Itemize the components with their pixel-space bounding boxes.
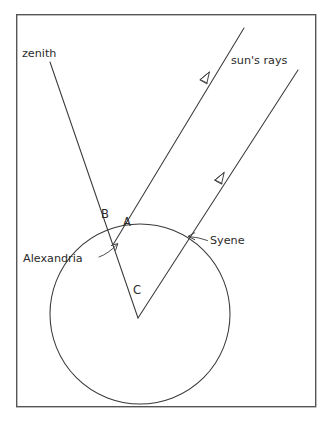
ray-arrow-icon-1 [200, 72, 209, 83]
label-vertex-a: A [123, 215, 131, 229]
label-alexandria: Alexandria [23, 252, 83, 265]
label-syene: Syene [210, 234, 245, 247]
label-vertex-b: B [101, 207, 109, 221]
diagram-frame [17, 15, 316, 407]
sun-ray-syene [138, 70, 298, 318]
zenith-line [50, 62, 138, 318]
label-zenith: zenith [22, 47, 56, 60]
diagram-canvas: zenith sun's rays Alexandria Syene B A C [0, 0, 333, 428]
ray-arrow-icon-2 [215, 172, 224, 183]
label-suns-rays: sun's rays [231, 54, 288, 67]
sun-ray-alexandria [114, 28, 245, 244]
eratosthenes-diagram: zenith sun's rays Alexandria Syene B A C [0, 0, 333, 428]
label-vertex-c: C [133, 283, 141, 297]
